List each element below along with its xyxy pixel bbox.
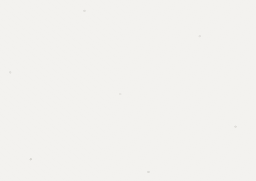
bipartite-graph-diagram — [0, 0, 256, 181]
graph-canvas — [0, 0, 256, 181]
